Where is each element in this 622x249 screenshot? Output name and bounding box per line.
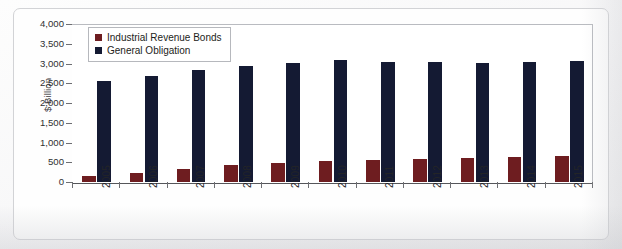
bar-industrial-revenue-bonds — [130, 173, 144, 182]
bar-industrial-revenue-bonds — [461, 158, 475, 182]
x-axis-tick-label: 2011 — [384, 166, 395, 188]
legend-label: Industrial Revenue Bonds — [107, 33, 222, 43]
x-axis-tick-label: 2013 — [479, 165, 490, 188]
bar-industrial-revenue-bonds — [224, 165, 238, 182]
x-axis-tick-mark — [308, 182, 309, 188]
y-axis-tick-label: 2,500 — [20, 78, 64, 88]
bar-chart: $ Billion 05001,0001,5002,0002,5003,0003… — [0, 0, 622, 249]
legend-label: General Obligation — [107, 46, 190, 56]
y-axis-tick-label: 500 — [20, 157, 64, 167]
legend-swatch-icon — [95, 34, 102, 41]
y-axis-tick-label: 0 — [20, 177, 64, 187]
x-axis-tick-mark — [450, 182, 451, 188]
y-axis-tick-label: 4,000 — [20, 19, 64, 29]
bar-industrial-revenue-bonds — [508, 157, 522, 182]
bar-industrial-revenue-bonds — [413, 159, 427, 182]
y-axis-tick-label: 3,500 — [20, 39, 64, 49]
x-axis-tick-label: 2007 — [195, 165, 206, 188]
x-axis-tick-mark — [545, 182, 546, 188]
x-axis-tick-label: 2015 — [573, 165, 584, 188]
x-axis-tick-label: 2009 — [290, 165, 301, 188]
y-axis-tick-label: 2,000 — [20, 98, 64, 108]
bar-industrial-revenue-bonds — [555, 156, 569, 182]
bar-industrial-revenue-bonds — [82, 176, 96, 182]
x-axis-tick-label: 2005 — [101, 165, 112, 188]
x-axis-tick-mark — [214, 182, 215, 188]
bar-industrial-revenue-bonds — [177, 169, 191, 182]
x-axis-tick-mark — [261, 182, 262, 188]
y-axis-tick-label: 1,000 — [20, 138, 64, 148]
x-axis-tick-label: 2014 — [526, 165, 537, 188]
bar-industrial-revenue-bonds — [271, 163, 285, 182]
bar-general-obligation — [570, 61, 584, 182]
x-axis-tick-mark — [592, 182, 593, 188]
x-axis-tick-mark — [167, 182, 168, 188]
x-axis-tick-mark — [119, 182, 120, 188]
bar-general-obligation — [334, 60, 348, 182]
y-axis-tick-label: 3,000 — [20, 59, 64, 69]
bar-industrial-revenue-bonds — [366, 160, 380, 182]
legend-item: General Obligation — [95, 44, 222, 57]
x-axis-tick-mark — [497, 182, 498, 188]
chart-legend: Industrial Revenue BondsGeneral Obligati… — [88, 27, 231, 62]
x-axis-tick-label: 2010 — [337, 165, 348, 188]
x-axis-tick-mark — [356, 182, 357, 188]
legend-swatch-icon — [95, 47, 102, 54]
x-axis-tick-label: 2006 — [148, 165, 159, 188]
bar-general-obligation — [428, 62, 442, 182]
bar-industrial-revenue-bonds — [319, 161, 333, 182]
legend-item: Industrial Revenue Bonds — [95, 31, 222, 44]
x-axis-tick-label: 2008 — [242, 165, 253, 188]
y-axis-tick-label: 1,500 — [20, 118, 64, 128]
x-axis-tick-label: 2012 — [432, 165, 443, 188]
x-axis-tick-mark — [72, 182, 73, 188]
x-axis-tick-mark — [403, 182, 404, 188]
bar-general-obligation — [381, 62, 395, 182]
